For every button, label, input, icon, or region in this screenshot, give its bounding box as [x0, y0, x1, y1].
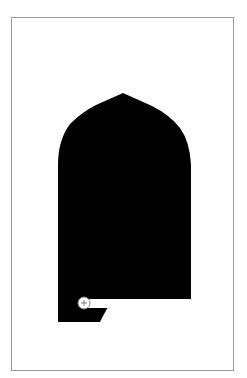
registration-mark — [78, 297, 90, 309]
arch-silhouette — [58, 93, 191, 322]
notch — [78, 299, 191, 308]
arch-figure — [0, 0, 247, 378]
